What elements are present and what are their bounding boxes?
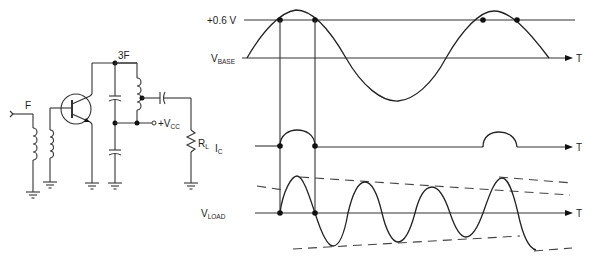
axis-arrow-icon	[565, 144, 573, 150]
junction-dot	[135, 121, 140, 126]
input-frequency-label: F	[25, 100, 31, 111]
transformer-secondary-coil	[50, 130, 54, 158]
time-axis-label: T	[576, 53, 582, 64]
ic-pulse	[483, 132, 517, 147]
ic-label: IC	[215, 143, 223, 155]
input-arrow-icon	[10, 111, 13, 117]
time-axis-label: T	[576, 142, 582, 153]
frequency-tripler-diagram: F	[0, 0, 597, 266]
upper-decay-envelope	[499, 177, 572, 183]
ic-pulse	[280, 130, 315, 146]
npn-transistor-icon	[61, 94, 91, 124]
ground-icon	[26, 192, 40, 198]
ground-icon	[85, 183, 99, 189]
timing-waveforms: +0.6 V VBASE IC VLOAD T T T	[201, 10, 582, 251]
load-resistor-icon	[187, 130, 195, 152]
vload-transition-dot	[277, 210, 283, 216]
axis-arrow-icon	[565, 55, 573, 61]
supply-label: +VCC	[158, 118, 180, 130]
vbase-waveform	[247, 10, 549, 101]
time-axis-label: T	[576, 208, 582, 219]
ic-transition-dot	[312, 143, 318, 149]
transformer-primary-coil	[33, 128, 37, 160]
threshold-crossing-dot	[514, 17, 520, 23]
threshold-crossing-dot	[480, 17, 486, 23]
axis-arrow-icon	[565, 210, 573, 216]
vload-label: VLOAD	[201, 208, 226, 220]
threshold-label: +0.6 V	[207, 15, 237, 26]
upper-decay-envelope	[257, 186, 283, 190]
tank-inductor-coil	[137, 78, 141, 110]
load-resistor-label: RL	[198, 138, 209, 150]
tank-frequency-label: 3F	[118, 50, 130, 61]
supply-terminal	[152, 121, 156, 125]
ic-transition-dot	[277, 143, 283, 149]
lower-decay-envelope	[534, 248, 572, 251]
ground-icon	[108, 183, 122, 189]
ground-icon	[43, 182, 57, 188]
tripler-circuit: F	[10, 50, 209, 198]
vbase-label: VBASE	[211, 53, 236, 65]
vload-transition-dot	[312, 210, 318, 216]
ground-icon	[184, 183, 198, 189]
